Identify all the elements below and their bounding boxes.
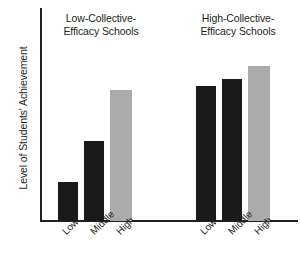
bar-high-group-high [248, 66, 270, 221]
bar-low-group-low [58, 182, 78, 221]
bar-low-group-high [110, 90, 132, 221]
y-axis-line [40, 8, 42, 222]
bar-high-group-low [196, 86, 216, 221]
y-axis-label: Level of Students' Achievement [17, 23, 29, 213]
bar-high-group-middle [222, 79, 242, 221]
bar-chart-figure: Low-Collective- Efficacy Schools High-Co… [0, 0, 301, 265]
group-title-high-collective-efficacy: High-Collective- Efficacy Schools [176, 12, 300, 37]
group-title-low-collective-efficacy: Low-Collective- Efficacy Schools [42, 12, 160, 37]
bar-low-group-middle [84, 141, 104, 221]
